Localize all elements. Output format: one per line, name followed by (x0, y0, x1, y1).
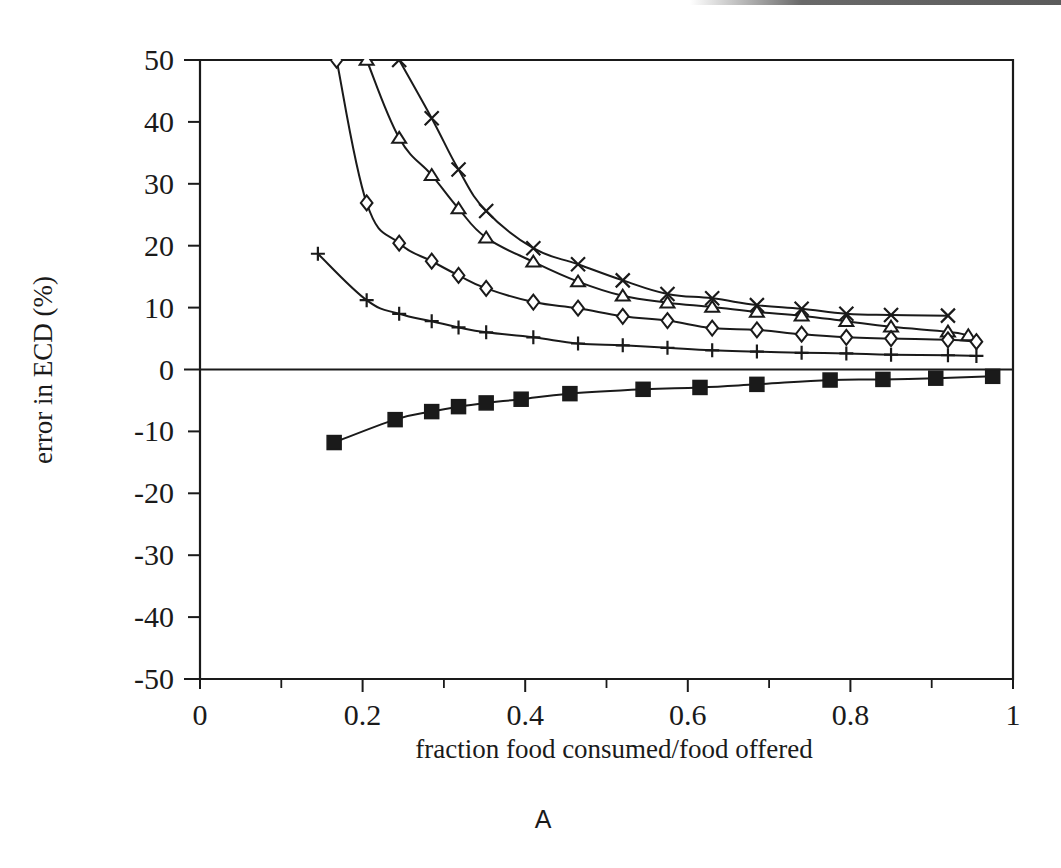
series-line (318, 254, 977, 356)
x-tick-label: 1 (1006, 698, 1021, 731)
data-point-marker (425, 314, 439, 328)
x-tick-label: 0.4 (506, 698, 544, 731)
data-point-marker (706, 321, 718, 336)
data-point-marker (941, 348, 955, 362)
x-tick-label: 0.6 (669, 698, 707, 731)
data-point-marker (750, 377, 764, 391)
x-tick-label: 0 (193, 698, 208, 731)
data-point-marker (527, 295, 539, 310)
data-point-marker (660, 341, 674, 355)
x-tick-label: 0.8 (832, 698, 870, 731)
series-line (399, 60, 948, 316)
figure-panel-a: error in ECD (%) fraction food consumed/… (0, 0, 1061, 868)
y-tick-label: -30 (134, 538, 174, 571)
y-tick-label: 0 (159, 353, 174, 386)
data-point-marker (361, 195, 373, 210)
data-point-marker (563, 387, 577, 401)
data-point-marker (616, 338, 630, 352)
series-layer (311, 53, 1000, 450)
y-axis-title: error in ECD (%) (28, 276, 58, 464)
y-tick-label: -20 (134, 476, 174, 509)
data-point-marker (479, 325, 493, 339)
data-point-marker (526, 241, 540, 255)
data-point-marker (426, 254, 438, 269)
y-tick-label: 10 (144, 291, 174, 324)
data-point-marker (480, 281, 492, 296)
data-point-marker (479, 204, 493, 218)
series-plus-series (311, 247, 984, 363)
y-tick-label: 50 (144, 43, 174, 76)
data-point-marker (885, 331, 897, 346)
data-point-marker (514, 392, 528, 406)
series-cross-series (392, 53, 955, 323)
data-point-marker (750, 345, 764, 359)
series-filled-square-series (327, 369, 1000, 449)
data-point-marker (617, 309, 629, 324)
data-point-marker (840, 330, 852, 345)
data-point-marker (572, 301, 584, 316)
data-point-marker (616, 273, 630, 287)
data-point-marker (331, 53, 343, 68)
data-point-marker (571, 337, 585, 351)
data-point-marker (425, 405, 439, 419)
error-in-ecd-chart: error in ECD (%) fraction food consumed/… (0, 0, 1061, 868)
data-point-marker (392, 132, 406, 143)
y-tick-label: 30 (144, 167, 174, 200)
y-tick-label: -50 (134, 662, 174, 695)
data-point-marker (986, 369, 1000, 383)
data-point-marker (327, 436, 341, 450)
panel-label: A (535, 805, 552, 833)
series-diamond-series (331, 53, 983, 350)
data-point-marker (571, 275, 585, 286)
data-point-marker (662, 313, 674, 328)
data-point-marker (884, 348, 898, 362)
data-point-marker (571, 257, 585, 271)
y-tick-label: -40 (134, 600, 174, 633)
data-point-marker (876, 372, 890, 386)
data-point-marker (693, 380, 707, 394)
data-point-marker (453, 268, 465, 283)
x-tick-labels: 00.20.40.60.81 (193, 698, 1021, 731)
data-point-marker (392, 307, 406, 321)
data-point-marker (823, 373, 837, 387)
data-point-marker (751, 322, 763, 337)
data-point-marker (705, 343, 719, 357)
data-point-marker (452, 320, 466, 334)
data-point-marker (425, 111, 439, 125)
y-tick-label: -10 (134, 414, 174, 447)
data-point-marker (969, 349, 983, 363)
y-tick-labels: 50403020100-10-20-30-40-50 (134, 43, 174, 695)
data-point-marker (839, 346, 853, 360)
data-point-marker (526, 256, 540, 267)
data-point-marker (795, 346, 809, 360)
data-point-marker (452, 400, 466, 414)
series-line (337, 60, 977, 342)
data-point-marker (452, 163, 466, 177)
data-point-marker (796, 327, 808, 342)
data-point-marker (929, 371, 943, 385)
x-tick-label: 0.2 (344, 698, 382, 731)
data-point-marker (393, 236, 405, 251)
series-triangle-series (360, 54, 976, 340)
y-tick-label: 40 (144, 105, 174, 138)
x-axis-title: fraction food consumed/food offered (415, 734, 813, 764)
data-point-marker (388, 413, 402, 427)
data-point-marker (636, 382, 650, 396)
y-tick-label: 20 (144, 229, 174, 262)
data-point-marker (526, 330, 540, 344)
data-point-marker (479, 396, 493, 410)
